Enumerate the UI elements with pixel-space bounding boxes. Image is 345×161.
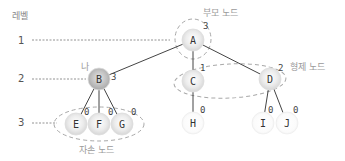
node-degree: 3 [111,72,116,82]
node-label: B [96,74,102,85]
level-2-label: 2 [18,73,24,84]
node-degree: 0 [131,107,136,117]
node-degree: 3 [203,21,208,31]
node-label: F [96,119,102,130]
node-label: I [260,118,266,129]
level-title: 레벨 [12,11,28,21]
node-degree: 0 [108,107,113,117]
node-label: J [284,118,290,129]
descendant-node-annotation: 자손 노드 [79,145,114,155]
tree-diagram: 레벨 1 2 3 A3B3C1D2E0F0G0H0I0J0 부모 노드 나 형제… [0,0,345,161]
level-1-label: 1 [18,35,24,46]
sibling-node-annotation: 형제 노드 [290,62,325,72]
node-degree: 0 [84,107,89,117]
node-label: E [73,119,79,130]
tree-node-b: B3 [88,68,116,90]
node-degree: 1 [200,63,205,73]
tree-node-i: I0 [252,105,274,134]
parent-node-annotation: 부모 노드 [203,8,238,18]
node-label: D [267,74,273,85]
nodes-layer: A3B3C1D2E0F0G0H0I0J0 [65,21,298,135]
node-label: A [190,35,196,46]
edge-a-d [203,45,260,74]
node-degree: 0 [200,105,205,115]
node-degree: 2 [278,63,283,73]
tree-node-c: C1 [182,63,205,92]
node-label: C [190,76,196,87]
node-degree: 0 [293,105,298,115]
edge-a-b [109,44,183,75]
node-label: H [190,118,196,129]
tree-node-a: A3 [182,21,208,51]
level-3-label: 3 [18,117,24,128]
self-node-annotation: 나 [81,62,89,72]
node-degree: 0 [268,105,273,115]
tree-node-h: H0 [182,105,205,134]
tree-node-g: G0 [111,107,136,135]
tree-node-f: F0 [88,107,113,135]
edge-d-j [274,89,283,112]
node-label: G [119,119,125,130]
tree-node-j: J0 [276,105,298,134]
